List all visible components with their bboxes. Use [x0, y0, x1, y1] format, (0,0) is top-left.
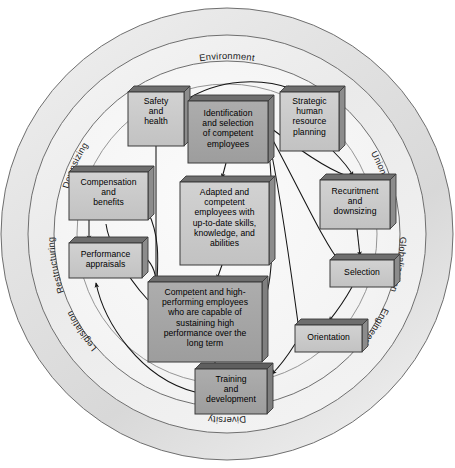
label-line: Performance [68, 249, 143, 259]
box-selection-top [330, 254, 400, 260]
label-line: Adapted and [179, 187, 270, 197]
box-training-and-development[interactable]: Training and development [194, 363, 273, 414]
box-training-top [195, 363, 273, 369]
box-strategic-human-resource-planning[interactable]: Strategic human resource planning [280, 86, 345, 151]
box-strategic-label: Strategic human resource planning [280, 96, 339, 137]
label-line: resource [280, 116, 339, 126]
label-line: and [69, 187, 148, 197]
box-adapted-top [180, 176, 275, 182]
label-line: and [194, 384, 268, 394]
label-line: and selection [188, 118, 268, 128]
box-strategic-top [280, 86, 345, 92]
box-compensation-top [69, 166, 154, 172]
label-line: health [128, 116, 184, 126]
label-line: long term [147, 338, 263, 348]
box-safety-and-health[interactable]: Safety and health [128, 86, 190, 146]
label-line: performance over the [147, 328, 263, 338]
label-line: performing employees [147, 297, 263, 307]
box-orientation[interactable]: Orientation [294, 319, 368, 352]
box-recuritment-and-downsizing[interactable]: Recuritment and downsizing [319, 174, 396, 229]
box-orientation-top [295, 319, 368, 325]
label-line: Strategic [280, 96, 339, 106]
label-line: abilities [179, 238, 270, 248]
label-line: sustaining high [147, 318, 263, 328]
box-safety-and-health-label: Safety and health [128, 96, 184, 127]
box-compensation-side [148, 166, 154, 220]
box-training-label: Training and development [194, 374, 268, 405]
diagram-canvas: Environment Unions Globalization Enginee… [0, 0, 455, 468]
box-identification-label: Identification and selection of competen… [188, 108, 268, 149]
label-line: and [128, 106, 184, 116]
label-line: Competent and high- [147, 287, 263, 297]
label-line: downsizing [319, 206, 391, 216]
label-line: employees [188, 139, 268, 149]
ring-label-diversity-text: Diversity [207, 414, 246, 426]
label-line: and [319, 196, 391, 206]
label-line: development [194, 394, 268, 404]
box-identification-side [268, 95, 274, 163]
label-line: up-to-date skills, [179, 218, 270, 228]
box-selection-label: Selection [329, 267, 395, 277]
label-line: Training [194, 374, 268, 384]
box-strategic-side [339, 86, 345, 151]
box-competent-top [148, 276, 268, 282]
box-identification-top [188, 95, 274, 101]
label-line: knowledge, and [179, 228, 270, 238]
ring-label-diversity: Diversity [207, 414, 246, 426]
label-line: appraisals [68, 259, 143, 269]
label-line: Identification [188, 108, 268, 118]
box-appraisals-label: Performance appraisals [68, 249, 143, 269]
label-line: Recuritment [319, 186, 391, 196]
box-competent-label: Competent and high- performing employees… [147, 287, 263, 348]
label-line: Selection [329, 267, 395, 277]
hrm-process-diagram: Environment Unions Globalization Enginee… [0, 0, 455, 468]
box-appraisals-top [69, 237, 148, 243]
label-line: Compensation [69, 177, 148, 187]
label-line: of competent [188, 128, 268, 138]
label-line: Orientation [294, 332, 363, 342]
label-line: employees with [179, 207, 270, 217]
label-line: competent [179, 197, 270, 207]
box-identification-and-selection[interactable]: Identification and selection of competen… [188, 95, 274, 163]
box-safety-and-health-top [128, 86, 190, 92]
box-adapted-label: Adapted and competent employees with up-… [179, 187, 270, 248]
box-selection[interactable]: Selection [329, 254, 400, 287]
box-competent-and-high-performing-employees[interactable]: Competent and high- performing employees… [147, 276, 268, 362]
label-line: Safety [128, 96, 184, 106]
box-compensation-label: Compensation and benefits [69, 177, 148, 208]
box-adapted-and-competent-employees[interactable]: Adapted and competent employees with up-… [179, 176, 275, 265]
box-compensation-and-benefits[interactable]: Compensation and benefits [69, 166, 154, 220]
box-orientation-label: Orientation [294, 332, 363, 342]
label-line: who are capable of [147, 307, 263, 317]
box-recruitment-top [320, 174, 396, 180]
box-recruitment-label: Recuritment and downsizing [319, 186, 391, 217]
label-line: planning [280, 127, 339, 137]
box-performance-appraisals[interactable]: Performance appraisals [68, 237, 148, 278]
label-line: human [280, 106, 339, 116]
label-line: benefits [69, 197, 148, 207]
